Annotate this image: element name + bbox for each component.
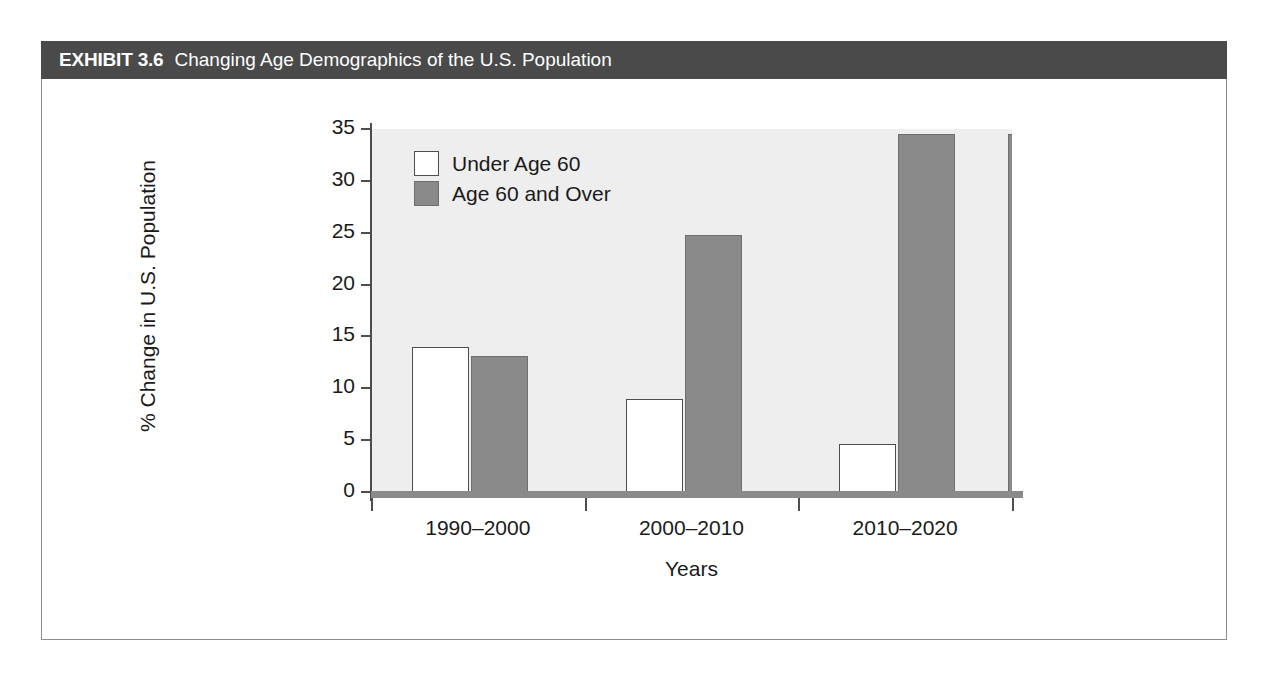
y-axis-tick: [361, 284, 370, 286]
x-axis-tick-label: 2010–2020: [798, 516, 1012, 540]
legend-label: Age 60 and Over: [452, 182, 611, 206]
x-axis-title: Years: [371, 557, 1012, 581]
legend-swatch-icon: [414, 181, 439, 206]
y-axis-tick-label-text: 5: [313, 426, 355, 450]
y-axis-line: [370, 123, 372, 501]
y-axis-tick-label-text: 35: [313, 115, 355, 139]
bar-age-60-and-over: [471, 356, 528, 492]
y-axis-tick-label-text: 25: [313, 219, 355, 243]
y-axis-tick-label-text: 20: [313, 271, 355, 295]
y-axis-tick-label: 5: [299, 426, 355, 448]
exhibit-title: Changing Age Demographics of the U.S. Po…: [174, 49, 611, 71]
y-axis-tick-label: 15: [299, 322, 355, 344]
y-axis-tick-label: 35: [299, 115, 355, 137]
exhibit-number-label: EXHIBIT 3.6: [59, 49, 163, 71]
y-axis-tick: [361, 335, 370, 337]
y-axis-tick: [361, 491, 370, 493]
bar-clipped-edge: [1008, 134, 1012, 492]
y-axis-tick-label: 10: [299, 374, 355, 396]
bar-chart: Under Age 60Age 60 and Over 051015202530…: [41, 79, 1227, 640]
x-axis-tick: [1012, 498, 1014, 511]
y-axis-tick-label-text: 0: [313, 478, 355, 502]
y-axis-tick: [361, 387, 370, 389]
x-axis-tick: [798, 498, 800, 511]
y-axis-tick: [361, 180, 370, 182]
y-axis-tick-label: 20: [299, 271, 355, 293]
exhibit-container: EXHIBIT 3.6 Changing Age Demographics of…: [41, 41, 1227, 640]
x-axis-tick: [585, 498, 587, 511]
bar-under-60: [412, 347, 469, 492]
y-axis-tick: [361, 232, 370, 234]
exhibit-header-band: EXHIBIT 3.6 Changing Age Demographics of…: [41, 41, 1227, 79]
y-axis-tick: [361, 128, 370, 130]
legend-label: Under Age 60: [452, 152, 580, 176]
x-axis-tick: [371, 498, 373, 511]
y-axis-tick-label: 0: [299, 478, 355, 500]
y-axis-tick: [361, 439, 370, 441]
legend-item: Under Age 60: [414, 151, 611, 176]
y-axis-tick-label-text: 15: [313, 322, 355, 346]
y-axis-title: % Change in U.S. Population: [136, 131, 160, 461]
bar-age-60-and-over: [685, 235, 742, 492]
legend-swatch-icon: [414, 151, 439, 176]
bar-under-60: [626, 399, 683, 492]
plot-area: Under Age 60Age 60 and Over: [371, 129, 1012, 492]
y-axis-tick-label-text: 30: [313, 167, 355, 191]
y-axis-tick-label-text: 10: [313, 374, 355, 398]
x-axis-tick-label: 2000–2010: [585, 516, 799, 540]
x-axis-line: [371, 491, 1023, 498]
x-axis-tick-label: 1990–2000: [371, 516, 585, 540]
y-axis-tick-label: 30: [299, 167, 355, 189]
chart-legend: Under Age 60Age 60 and Over: [414, 151, 611, 211]
legend-item: Age 60 and Over: [414, 181, 611, 206]
bar-age-60-and-over: [898, 134, 955, 492]
y-axis-tick-label: 25: [299, 219, 355, 241]
bar-under-60: [839, 444, 896, 492]
